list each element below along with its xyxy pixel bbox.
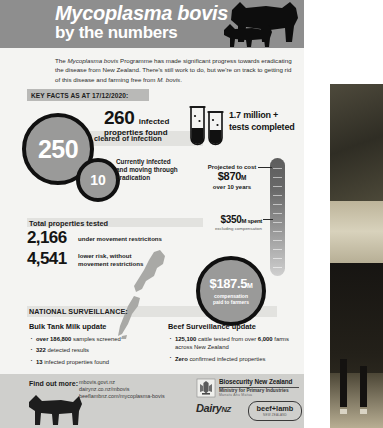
projected-cost-period: over 10 years <box>198 184 266 190</box>
beef-item-2-text: confirmed infected properties <box>188 356 266 362</box>
projected-cost-stat: Projected to cost $870M over 10 years <box>198 164 266 190</box>
dairynz-main-text: Dairy <box>196 402 222 414</box>
beef-lamb-logo: beef+lamb NEW ZEALAND <box>248 401 302 421</box>
dairynz-suffix-text: NZ <box>222 405 231 414</box>
beef-item-0-text: cattle tested from over <box>196 336 256 342</box>
calf-silhouette-icon <box>222 20 274 48</box>
spent-leader-line <box>263 219 273 220</box>
nz-government-crest-icon <box>196 378 216 398</box>
beef-surveillance-heading: Beef Surveillance update <box>168 322 293 331</box>
tests-completed-stat: 1.7 million + tests completed <box>229 110 304 133</box>
intro-paragraph: The Mycoplasma bovis Programme has made … <box>55 56 293 84</box>
infographic-page: Mycoplasma bovis by the numbers The Myco… <box>0 0 383 428</box>
currently-infected-line-3: eradication <box>116 174 194 182</box>
projected-cost-value: $870 <box>218 170 241 182</box>
biosecurity-title: Biosecurity New Zealand <box>219 378 292 385</box>
key-facts-label: KEY FACTS AS AT 17/12/2020: <box>31 92 128 99</box>
url-beeflambnz[interactable]: beeflambnz.com/mycoplasma-bovis <box>79 393 165 400</box>
footer-urls: mbovis.govt.nz dairynz.co.nz/mbovis beef… <box>79 379 165 401</box>
url-mbovis[interactable]: mbovis.govt.nz <box>79 379 165 386</box>
spent-note: excluding compensation <box>200 226 262 231</box>
photo-cow-hoof <box>360 409 367 414</box>
bulk-item-1-value: 322 <box>36 347 46 353</box>
projected-cost-unit: M <box>241 174 246 181</box>
beef-lamb-name: beef+lamb <box>257 405 294 413</box>
beef-item-2-value: Zero <box>175 356 188 362</box>
beef-item-1-value: 6,000 <box>258 336 273 342</box>
intro-emphasis-2: M. bovis <box>157 76 180 83</box>
bulk-item-2-text: infected properties found <box>43 359 109 365</box>
spent-word: spent <box>246 218 262 224</box>
beef-lamb-sub: NEW ZEALAND <box>263 413 287 417</box>
currently-infected-circle: 10 <box>76 158 120 202</box>
projected-cost-amount: $870M <box>198 170 266 184</box>
beef-item-0-value: 125,100 <box>175 336 196 342</box>
page-subtitle: by the numbers <box>55 23 177 42</box>
compensation-circle: $187.5M compensation paid to farmers <box>196 256 266 326</box>
properties-row-1-label: under movement restricitons <box>78 235 162 243</box>
url-dairynz[interactable]: dairynz.co.nz/mbovis <box>79 386 165 393</box>
bulk-item-1-text: detected results <box>46 347 89 353</box>
compensation-label: compensation paid to farmers <box>213 293 249 306</box>
tests-line-1: 1.7 million + <box>229 110 304 122</box>
national-surveillance-title: NATIONAL SURVEILLANCE: <box>29 307 128 316</box>
spent-amount: $350M spent <box>200 214 262 225</box>
photo-cow-leg <box>360 366 367 407</box>
key-facts-banner: KEY FACTS AS AT 17/12/2020: <box>27 89 149 101</box>
intro-emphasis-1: Mycoplasma bovis <box>67 57 118 64</box>
infected-found-label-1: infected <box>139 117 170 126</box>
properties-row-2-number: 4,541 <box>27 250 67 268</box>
photo-cow-leg <box>340 359 347 407</box>
properties-tested-heading: Total properties tested <box>29 219 108 228</box>
intro-text-3: . <box>180 76 182 83</box>
bulk-item-0-text: samples screened <box>71 336 120 342</box>
infected-found-number: 260 <box>104 107 134 128</box>
thermometer-icon <box>270 158 285 276</box>
currently-infected-label: Currently infected and moving through er… <box>116 158 194 183</box>
page-title: Mycoplasma bovis <box>55 3 228 23</box>
list-item: Zero confirmed infected properties <box>168 355 293 363</box>
header-band: Mycoplasma bovis by the numbers <box>0 0 304 48</box>
compensation-value: $187.5 <box>210 276 247 291</box>
currently-infected-line-2: and moving through <box>116 166 194 174</box>
dairynz-logo: DairyNZ <box>196 402 231 414</box>
compensation-amount: $187.5M <box>210 277 253 290</box>
intro-text-1: The <box>55 57 67 64</box>
beef-surveillance-column: Beef Surveillance update 125,100 cattle … <box>168 322 293 366</box>
list-item: 125,100 cattle tested from over 6,000 fa… <box>168 335 293 352</box>
photo-foreground-grass <box>330 373 383 428</box>
infographic-sheet: Mycoplasma bovis by the numbers The Myco… <box>0 0 304 428</box>
cleared-label: cleared of infection <box>94 134 162 143</box>
compensation-unit: M <box>247 282 252 289</box>
bulk-item-0-value: over 186,800 <box>36 336 71 342</box>
cow-in-paddock-photo <box>330 84 383 428</box>
test-tube-icon <box>186 104 230 152</box>
properties-row-1-number: 2,166 <box>27 229 67 247</box>
tests-line-2: tests completed <box>229 122 304 134</box>
bulk-tank-milk-heading: Bulk Tank Milk update <box>29 322 149 331</box>
spent-value: $350 <box>220 214 241 225</box>
list-item: over 186,800 samples screened <box>29 335 149 343</box>
list-item: 322 detected results <box>29 346 149 354</box>
compensation-label-line-2: paid to farmers <box>213 299 249 306</box>
cow-silhouette-icon <box>27 390 83 426</box>
bulk-tank-milk-column: Bulk Tank Milk update over 186,800 sampl… <box>29 322 149 369</box>
list-item: 13 infected properties found <box>29 358 149 366</box>
photo-cow-hoof <box>340 409 347 414</box>
biosecurity-maori-name: Manatu Ahu Matua <box>219 393 252 397</box>
currently-infected-line-1: Currently infected <box>116 158 194 166</box>
biosecurity-logo: Biosecurity New Zealand Ministry for Pri… <box>196 378 300 398</box>
find-out-more-label: Find out more: <box>29 380 78 387</box>
spent-stat: $350M spent excluding compensation <box>200 214 262 231</box>
